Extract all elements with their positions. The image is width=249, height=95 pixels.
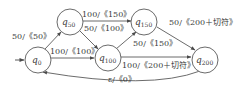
state-q0: q0 [25, 47, 51, 73]
state-diagram: 50/《50》 100/《100》 100/《150》 50/《100》 100… [0, 0, 249, 95]
state-q50: q50 [57, 9, 83, 35]
edge-label: 50/《150》 [133, 39, 177, 48]
edge-label: 50/《100》 [84, 24, 128, 33]
edge-label: 100/《100》 [50, 47, 99, 56]
edge-label: 100/《200＋切符》 [122, 60, 195, 70]
state-q100: q100 [95, 45, 121, 71]
edge-q200-q0: ε/《0》 [43, 71, 200, 84]
edge-q100-q200: 100/《200＋切符》 [121, 57, 195, 70]
state-q200: q200 [192, 47, 218, 73]
state-q150: q150 [131, 9, 157, 35]
edge-label: 50/《50》 [12, 32, 51, 41]
edge-label: 50/《200＋切符》 [169, 17, 237, 27]
edge-q0-q100: 100/《100》 [50, 47, 99, 58]
edge-q50-q150: 100/《150》 [82, 10, 131, 21]
edge-label: 100/《150》 [82, 10, 131, 19]
edge-label: ε/《0》 [108, 75, 136, 84]
